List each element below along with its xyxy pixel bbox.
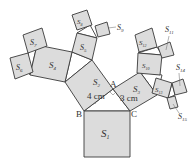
square-s15 (167, 96, 178, 109)
point-a-label: A (110, 79, 117, 89)
point-b-label: B (76, 109, 82, 119)
length-ab-label: 4 cm (87, 91, 105, 101)
square-s9 (95, 22, 110, 37)
square-s10 (137, 53, 162, 75)
point-c-label: C (131, 109, 137, 119)
label-s14: S14 (176, 63, 186, 73)
label-s11: S11 (165, 25, 174, 35)
leader-s9 (108, 27, 116, 28)
length-ac-label: 3 cm (120, 93, 138, 103)
label-s9: S9 (117, 23, 124, 33)
label-s15: S15 (178, 112, 188, 122)
pythagoras-tree-diagram: S1 S2 S3 S4 S5 S6 S7 S8 S9 S10 S11 S12 S… (0, 0, 194, 161)
